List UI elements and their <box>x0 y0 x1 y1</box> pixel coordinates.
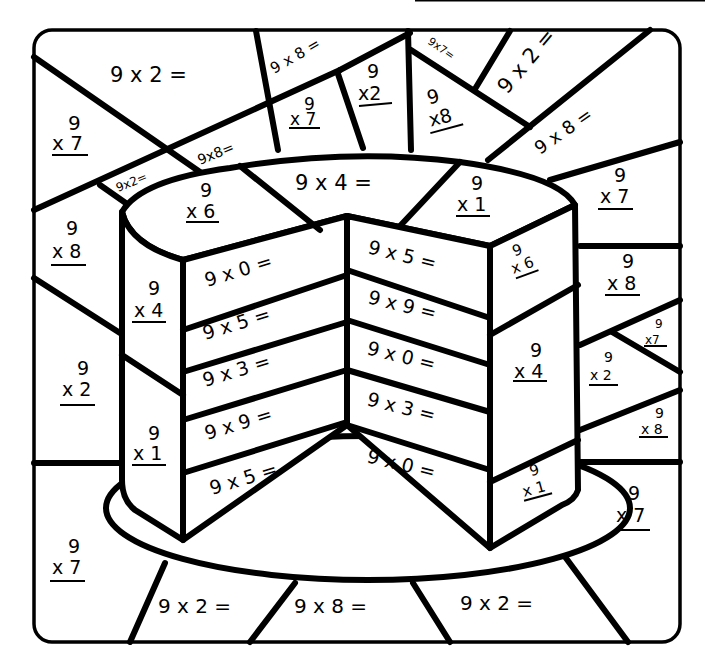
svg-text:9: 9 <box>200 179 212 201</box>
region-bg-top-left[interactable]: 9 x 2 = <box>110 63 187 87</box>
svg-text:x 7: x 7 <box>52 556 81 578</box>
region-bg-bottom-1[interactable]: 9 x 2 = <box>158 594 231 618</box>
svg-text:9: 9 <box>614 164 626 186</box>
svg-text:x 1: x 1 <box>133 442 162 464</box>
region-top-center[interactable]: 9 x 4 = <box>295 171 372 195</box>
svg-text:x 7: x 7 <box>52 131 83 155</box>
svg-text:x7: x7 <box>645 333 660 347</box>
svg-text:x 8: x 8 <box>607 272 636 294</box>
svg-text:9: 9 <box>77 357 89 379</box>
svg-text:9: 9 <box>655 405 664 421</box>
region-bg-bottom-3[interactable]: 9 x 2 = <box>460 591 533 615</box>
color-by-number-cake-worksheet: 9 x 2 = 9x2= 9x8= 9 x 8 = 9x7= 9 x 2 = 9… <box>0 0 710 671</box>
svg-text:x 2: x 2 <box>590 367 612 383</box>
svg-text:x 1: x 1 <box>457 193 486 215</box>
svg-text:9: 9 <box>367 60 379 82</box>
svg-text:9: 9 <box>655 317 663 331</box>
svg-text:x 8: x 8 <box>641 421 663 437</box>
svg-text:x 4: x 4 <box>514 360 543 382</box>
svg-text:9: 9 <box>622 250 634 272</box>
svg-text:9: 9 <box>66 217 78 239</box>
svg-text:x 7: x 7 <box>616 504 645 526</box>
svg-text:x 4: x 4 <box>134 299 163 321</box>
svg-text:x 7: x 7 <box>600 185 629 207</box>
svg-text:9: 9 <box>148 277 160 299</box>
svg-text:x2: x2 <box>358 82 381 104</box>
svg-text:x 2: x 2 <box>62 378 91 400</box>
region-bg-bottom-2[interactable]: 9 x 8 = <box>294 594 367 618</box>
svg-text:9: 9 <box>530 339 542 361</box>
svg-text:x 6: x 6 <box>186 200 215 222</box>
svg-text:x 8: x 8 <box>52 240 81 262</box>
svg-text:9: 9 <box>628 482 640 504</box>
svg-text:9: 9 <box>68 535 80 557</box>
svg-text:9: 9 <box>148 422 160 444</box>
svg-text:x 7: x 7 <box>290 109 316 129</box>
svg-text:9: 9 <box>604 349 613 365</box>
svg-text:9: 9 <box>471 172 483 194</box>
